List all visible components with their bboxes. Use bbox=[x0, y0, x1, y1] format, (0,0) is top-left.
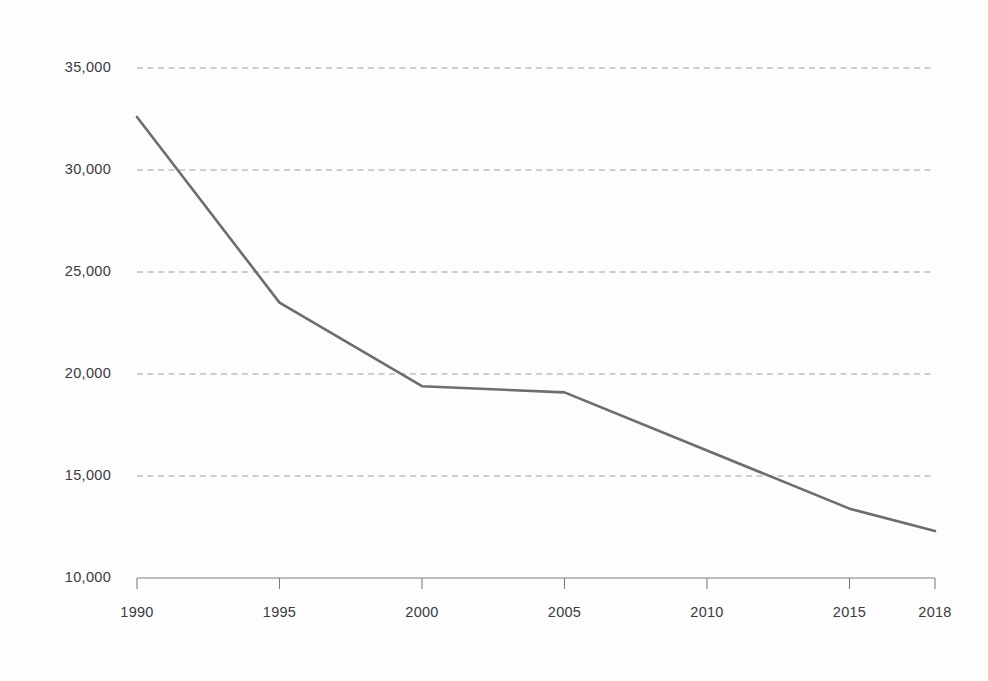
y-axis-tick-label: 20,000 bbox=[65, 365, 111, 381]
x-axis-tick-label: 2010 bbox=[690, 604, 723, 620]
x-axis-tick-label: 1990 bbox=[120, 604, 153, 620]
y-axis-tick-label: 10,000 bbox=[65, 569, 111, 585]
y-axis-tick-labels: 10,00015,00020,00025,00030,00035,000 bbox=[65, 59, 111, 585]
x-axis-tick-label: 2005 bbox=[548, 604, 581, 620]
x-axis-tick-label: 2018 bbox=[918, 604, 951, 620]
y-axis-tick-label: 25,000 bbox=[65, 263, 111, 279]
y-axis-tick-label: 15,000 bbox=[65, 467, 111, 483]
x-axis-tick-label: 2000 bbox=[405, 604, 438, 620]
data-series-line bbox=[137, 117, 935, 531]
y-axis-tick-label: 30,000 bbox=[65, 161, 111, 177]
line-chart: 10,00015,00020,00025,00030,00035,000 199… bbox=[0, 0, 988, 681]
x-axis-tick-label: 1995 bbox=[263, 604, 296, 620]
x-axis-ticks bbox=[137, 578, 935, 589]
x-axis-tick-label: 2015 bbox=[833, 604, 866, 620]
y-axis-tick-label: 35,000 bbox=[65, 59, 111, 75]
chart-canvas: 10,00015,00020,00025,00030,00035,000 199… bbox=[0, 0, 988, 681]
x-axis-tick-labels: 1990199520002005201020152018 bbox=[120, 604, 951, 620]
